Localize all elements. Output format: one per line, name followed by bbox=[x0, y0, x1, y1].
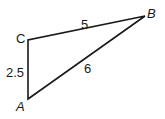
vertex-label-a: A bbox=[15, 99, 25, 114]
vertex-label-b: B bbox=[147, 6, 156, 21]
side-label-ab: 6 bbox=[84, 61, 91, 76]
side-label-ac: 2.5 bbox=[6, 65, 24, 80]
vertex-label-c: C bbox=[16, 31, 25, 46]
triangle-diagram: B C A 5 6 2.5 bbox=[0, 0, 165, 119]
side-label-cb: 5 bbox=[81, 17, 88, 32]
